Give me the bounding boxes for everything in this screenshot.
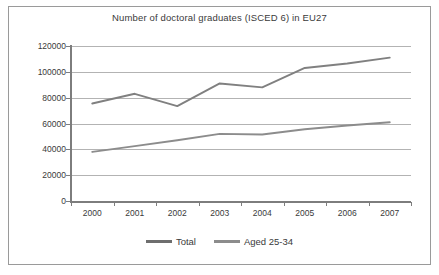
y-axis-tick-mark: [66, 201, 70, 202]
y-axis-tick-mark: [66, 72, 70, 73]
y-axis-line: [70, 45, 72, 202]
x-axis-tick-label: 2007: [380, 208, 399, 218]
x-axis-tick-label: 2003: [210, 208, 229, 218]
legend-swatch-aged-25-34: [214, 240, 240, 243]
y-axis-tick-label: 40000: [42, 144, 66, 154]
x-axis-tick-mark: [369, 202, 370, 206]
x-axis-tick-mark: [71, 202, 72, 206]
legend-label-total: Total: [176, 236, 196, 247]
x-axis-tick-mark: [326, 202, 327, 206]
y-axis-tick-mark: [66, 98, 70, 99]
x-axis-tick-label: 2004: [253, 208, 272, 218]
plot-area: [71, 46, 411, 201]
x-axis-tick-mark: [199, 202, 200, 206]
y-axis-tick-mark: [66, 46, 70, 47]
y-axis-tick-mark: [66, 175, 70, 176]
y-axis-tick-label: 120000: [38, 41, 66, 51]
x-axis-tick-mark: [114, 202, 115, 206]
x-axis-tick-label: 2000: [83, 208, 102, 218]
y-axis-labels: 020000400006000080000100000120000: [14, 0, 66, 275]
x-axis-tick-label: 2002: [168, 208, 187, 218]
legend-item-aged-25-34: Aged 25-34: [214, 236, 293, 247]
gridline: [71, 72, 411, 73]
legend-label-aged-25-34: Aged 25-34: [244, 236, 293, 247]
y-axis-tick-label: 100000: [38, 67, 66, 77]
x-axis-tick-label: 2006: [338, 208, 357, 218]
gridline: [71, 98, 411, 99]
chart-legend: Total Aged 25-34: [8, 236, 431, 247]
y-axis-tick-mark: [66, 149, 70, 150]
legend-swatch-total: [146, 240, 172, 243]
gridline: [71, 124, 411, 125]
gridline: [71, 149, 411, 150]
gridline: [71, 175, 411, 176]
x-axis-tick-mark: [284, 202, 285, 206]
y-axis-tick-label: 60000: [42, 119, 66, 129]
x-axis-tick-label: 2001: [125, 208, 144, 218]
x-axis-tick-mark: [241, 202, 242, 206]
legend-item-total: Total: [146, 236, 196, 247]
chart-container: Number of doctoral graduates (ISCED 6) i…: [0, 0, 439, 275]
chart-title: Number of doctoral graduates (ISCED 6) i…: [8, 12, 431, 23]
x-axis-tick-label: 2005: [295, 208, 314, 218]
y-axis-tick-label: 80000: [42, 93, 66, 103]
gridline: [71, 46, 411, 47]
x-axis-tick-mark: [156, 202, 157, 206]
y-axis-tick-mark: [66, 124, 70, 125]
y-axis-tick-label: 20000: [42, 170, 66, 180]
x-axis-tick-mark: [411, 202, 412, 206]
